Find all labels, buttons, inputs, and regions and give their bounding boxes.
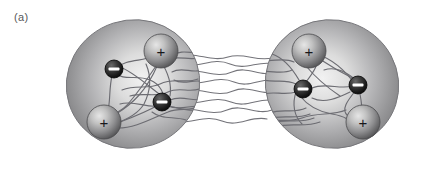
charge-L3 [153, 93, 171, 111]
left-atom: + + [50, 2, 217, 165]
diagram-canvas: + + [0, 0, 426, 169]
charge-label: + [100, 114, 109, 131]
charge-R1: + [292, 34, 326, 68]
charge-R4: + [346, 105, 380, 139]
right-atom-cloud [249, 2, 416, 165]
right-atom: + + [249, 2, 416, 165]
minus-glyph [353, 83, 364, 86]
minus-glyph [109, 67, 120, 70]
charge-label: + [157, 43, 166, 60]
charge-label: + [359, 114, 368, 131]
figure-root: (a) [0, 0, 426, 169]
left-atom-cloud [50, 2, 217, 165]
charge-R3 [349, 76, 367, 94]
panel-label: (a) [14, 11, 28, 23]
minus-glyph [298, 87, 309, 90]
charge-L2 [105, 60, 123, 78]
charge-label: + [305, 43, 314, 60]
charge-L4: + [87, 105, 121, 139]
minus-glyph [157, 100, 168, 103]
charge-L1: + [144, 34, 178, 68]
charge-R2 [294, 80, 312, 98]
